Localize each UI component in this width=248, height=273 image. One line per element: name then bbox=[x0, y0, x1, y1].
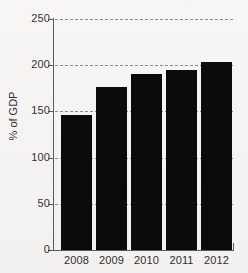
y-tick-label: 250 bbox=[4, 13, 50, 24]
bar-chart-figure: 050100150200250 % of GDP 200820092010201… bbox=[0, 0, 248, 273]
x-axis-line bbox=[53, 250, 234, 251]
x-tick-label-2011: 2011 bbox=[162, 254, 202, 266]
plot-area bbox=[54, 19, 233, 250]
x-tick-label-2009: 2009 bbox=[92, 254, 132, 266]
y-tick-label: 200 bbox=[4, 59, 50, 70]
bar-2010[interactable] bbox=[131, 74, 162, 250]
bar-2008[interactable] bbox=[61, 115, 92, 250]
x-tick-label-2012: 2012 bbox=[197, 254, 237, 266]
y-tick-label: 50 bbox=[4, 198, 50, 209]
y-axis-title: % of GDP bbox=[7, 76, 19, 156]
x-tick-label-2010: 2010 bbox=[127, 254, 167, 266]
x-axis-right-cap bbox=[233, 243, 234, 251]
y-tick-label: 0 bbox=[4, 244, 50, 255]
x-tick-label-2008: 2008 bbox=[57, 254, 97, 266]
bar-2012[interactable] bbox=[201, 62, 232, 250]
bar-2011[interactable] bbox=[166, 70, 197, 250]
bar-2009[interactable] bbox=[96, 87, 127, 250]
